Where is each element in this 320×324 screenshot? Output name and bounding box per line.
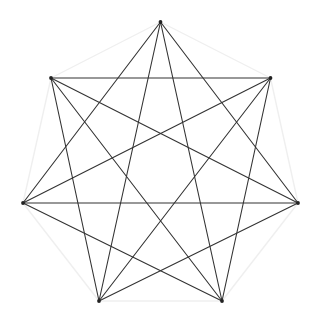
vertex-dot-top xyxy=(159,20,163,24)
star-chord-top-to-lower-right xyxy=(161,22,223,301)
vertex-dot-group xyxy=(21,20,300,303)
vertex-dot-lower-right xyxy=(220,299,224,303)
star-chords-step3 xyxy=(23,22,298,301)
vertex-dot-upper-right xyxy=(269,76,273,80)
heptagram-diagram xyxy=(0,0,320,324)
star-chords-step2 xyxy=(23,22,298,301)
star-chord-lower-right-to-left-middle xyxy=(23,203,222,301)
star-chord-upper-left-to-right-middle xyxy=(51,78,298,203)
vertex-dot-upper-left xyxy=(49,76,53,80)
star-chord-lower-left-to-upper-left xyxy=(51,78,99,301)
star-chord-right-middle-to-lower-left xyxy=(99,203,298,301)
star-chord-lower-right-to-upper-left xyxy=(51,78,222,301)
star-chord-lower-left-to-top xyxy=(99,22,161,301)
vertex-dot-right-middle xyxy=(296,201,300,205)
star-chord-upper-right-to-lower-left xyxy=(99,78,271,301)
vertex-dot-left-middle xyxy=(21,201,25,205)
figure-canvas xyxy=(0,0,320,324)
star-chord-left-middle-to-upper-right xyxy=(23,78,271,203)
star-chord-upper-right-to-lower-right xyxy=(222,78,271,301)
perimeter-edge-upper-left-to-top xyxy=(51,22,161,78)
perimeter-edge-lower-left-to-left-middle xyxy=(23,203,99,301)
outer-heptagon-perimeter xyxy=(23,22,298,301)
vertex-dot-lower-left xyxy=(97,299,101,303)
perimeter-edge-right-middle-to-lower-right xyxy=(222,203,298,301)
perimeter-edge-top-to-upper-right xyxy=(161,22,271,78)
